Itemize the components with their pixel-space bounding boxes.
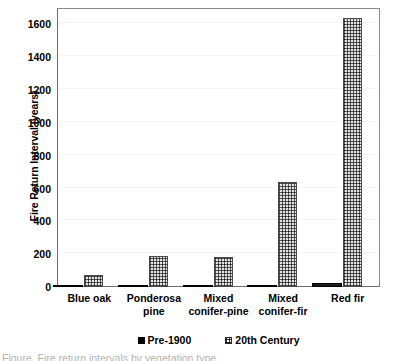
legend-swatch-pre-1900-icon <box>138 337 145 344</box>
x-tick-label-0: Blue oak <box>57 292 122 305</box>
y-tick-label-0: 0 <box>0 282 51 293</box>
bar-20th-century-1 <box>149 256 168 287</box>
y-tick-label-1400: 1400 <box>0 52 51 63</box>
chart-legend: Pre-1900 20th Century <box>57 334 380 346</box>
legend-entry-pre-1900: Pre-1900 <box>138 334 192 346</box>
bar-pre-1900-3 <box>247 285 277 288</box>
legend-entry-20th-century: 20th Century <box>225 334 299 346</box>
x-tick-label-3: Mixed conifer-fir <box>251 292 316 317</box>
y-tick-label-800: 800 <box>0 150 51 161</box>
cut-off-caption: Figure. Fire return intervals by vegetat… <box>2 353 394 361</box>
bar-20th-century-3 <box>278 182 297 287</box>
bar-pre-1900-0 <box>53 285 83 288</box>
x-tick-label-2: Mixed conifer-pine <box>186 292 251 317</box>
bar-20th-century-2 <box>214 257 233 287</box>
y-tick-label-1200: 1200 <box>0 85 51 96</box>
y-tick-label-1600: 1600 <box>0 19 51 30</box>
bar-20th-century-4 <box>343 18 362 287</box>
bar-20th-century-0 <box>84 275 103 287</box>
y-tick-label-600: 600 <box>0 183 51 194</box>
bar-pre-1900-1 <box>118 285 148 288</box>
y-tick-label-400: 400 <box>0 216 51 227</box>
legend-label-pre-1900: Pre-1900 <box>148 334 192 346</box>
bar-pre-1900-2 <box>183 285 213 288</box>
bars-layer <box>57 8 380 287</box>
x-tick-label-1: Ponderosa pine <box>122 292 187 317</box>
legend-label-20th-century: 20th Century <box>235 334 299 346</box>
fire-return-interval-bar-chart: Fire Return Interval (years) 02004006008… <box>0 0 396 361</box>
bar-pre-1900-4 <box>312 283 342 287</box>
y-tick-label-200: 200 <box>0 249 51 260</box>
y-tick-label-1000: 1000 <box>0 118 51 129</box>
x-tick-label-4: Red fir <box>315 292 380 305</box>
legend-swatch-20th-century-icon <box>225 337 232 344</box>
